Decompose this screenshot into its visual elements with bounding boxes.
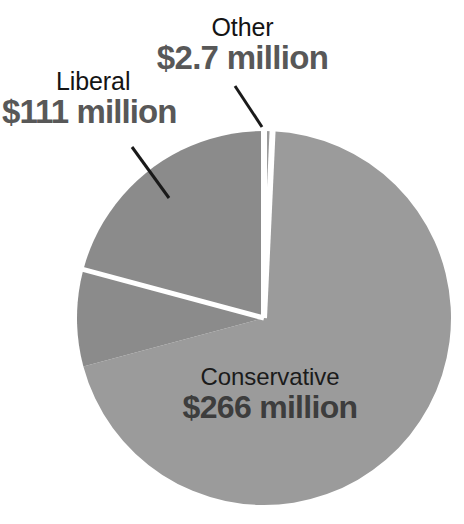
slice-label-other: Other [145,14,340,40]
slice-label-conservative: Conservative [158,365,382,390]
slice-callout-other: Other $2.7 million [145,14,340,75]
slice-callout-liberal: Liberal $111 million [2,68,202,129]
slice-value-liberal: $111 million [2,95,202,129]
leader-line-other [235,86,262,127]
slice-callout-conservative: Conservative $266 million [158,365,382,424]
slice-value-conservative: $266 million [158,391,382,424]
slice-label-liberal: Liberal [2,68,202,94]
pie-chart: Other $2.7 million Liberal $111 million … [0,0,464,524]
